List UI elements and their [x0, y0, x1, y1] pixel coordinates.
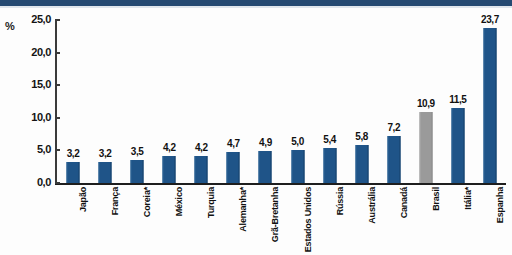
top-banner-shadow	[0, 6, 512, 8]
bar[interactable]	[483, 28, 496, 183]
bar-value-label: 4,2	[195, 142, 208, 153]
bar-value-label: 5,4	[323, 134, 336, 145]
y-axis-tick-label-text: 25,0	[31, 13, 51, 25]
x-axis-category-label: Alemanha*	[238, 187, 248, 232]
x-axis-label-slot: Coreia*	[131, 187, 143, 253]
bar-slot[interactable]: 4,7	[217, 20, 249, 183]
x-axis-category-label: França	[110, 187, 120, 215]
bar[interactable]	[451, 108, 464, 183]
bar-slot[interactable]: 5,4	[314, 20, 346, 183]
x-axis-label-slot: Brasil	[420, 187, 432, 253]
y-axis-tick-label-text: 15,0	[31, 78, 51, 90]
y-axis-tick-label: 0,0	[0, 176, 51, 188]
bar-slot[interactable]: 4,2	[185, 20, 217, 183]
bar-value-label: 7,2	[387, 122, 400, 133]
x-axis-category-label: Brasil	[431, 187, 441, 211]
x-axis-category-label: Espanha	[495, 187, 505, 223]
y-axis-tick-label: 10,0	[0, 111, 51, 123]
x-axis-category-label: Japão	[78, 187, 88, 212]
bar-slot[interactable]: 3,2	[57, 20, 89, 183]
bar-slot[interactable]: 4,9	[249, 20, 281, 183]
bar-slot[interactable]: 5,0	[282, 20, 314, 183]
x-axis-category-label: Grã-Bretanha	[270, 187, 280, 242]
bar-slot[interactable]: 3,5	[121, 20, 153, 183]
x-axis-category-label: Estados Unidos	[303, 187, 313, 252]
bar[interactable]	[355, 145, 368, 183]
bar-value-label: 11,5	[449, 94, 466, 105]
y-axis-tick-label-text: 0,0	[37, 176, 51, 188]
bar[interactable]	[227, 152, 240, 183]
y-axis-tick-label: 15,0	[0, 78, 51, 90]
x-axis-label-slot: Rússia	[324, 187, 336, 253]
bar-value-label: 23,7	[481, 14, 499, 25]
bar-value-label: 4,7	[227, 138, 240, 149]
x-axis-label-slot: Itália*	[452, 187, 464, 253]
bar[interactable]	[259, 151, 272, 183]
bar-value-label: 3,5	[131, 146, 144, 157]
x-axis-category-label: Rússia	[335, 187, 345, 215]
y-axis-tick-label-text: 5,0	[37, 143, 51, 155]
bar-value-label: 5,8	[355, 131, 368, 142]
y-axis-tick-label: 20,0	[0, 46, 51, 58]
bar[interactable]	[131, 160, 144, 183]
bar[interactable]	[195, 156, 208, 183]
x-axis-label-slot: Turquia	[195, 187, 207, 253]
bar-slot[interactable]: 7,2	[378, 20, 410, 183]
x-axis-label-slot: Espanha	[484, 187, 496, 253]
bar[interactable]	[387, 136, 400, 183]
x-axis-label-slot: Austrália	[356, 187, 368, 253]
y-axis-tick-label-text: 10,0	[31, 111, 51, 123]
bar-value-label: 4,2	[163, 142, 176, 153]
bar[interactable]	[163, 156, 176, 183]
x-axis-category-label: Coreia*	[142, 187, 152, 217]
x-axis-label-slot: México	[163, 187, 175, 253]
y-axis-tick-label: 5,0	[0, 143, 51, 155]
bar-slot[interactable]: 23,7	[474, 20, 506, 183]
x-axis-category-label: México	[174, 187, 184, 216]
y-axis-tick-label-text: 20,0	[31, 46, 51, 58]
bar-value-label: 5,0	[291, 136, 304, 147]
x-axis-label-slot: Alemanha*	[227, 187, 239, 253]
bar-slot[interactable]: 10,9	[410, 20, 442, 183]
y-axis-tick-label: 25,0	[0, 13, 51, 25]
x-axis-label-slot: França	[99, 187, 111, 253]
bar-slot[interactable]: 4,2	[153, 20, 185, 183]
bar[interactable]	[291, 150, 304, 183]
x-axis-line	[55, 183, 506, 185]
x-axis-label-slot: Japão	[67, 187, 79, 253]
bar-slot[interactable]: 3,2	[89, 20, 121, 183]
bar-value-label: 3,2	[67, 148, 80, 159]
bar[interactable]	[99, 162, 112, 183]
x-axis-category-label: Canadá	[399, 187, 409, 218]
x-axis-label-slot: Estados Unidos	[292, 187, 304, 253]
x-axis-label-slot: Grã-Bretanha	[259, 187, 271, 253]
bar-value-label: 10,9	[417, 98, 435, 109]
x-axis-category-label: Itália*	[463, 187, 473, 210]
bar-chart: % 0,05,010,015,020,025,0 3,23,23,54,24,2…	[0, 0, 512, 255]
plot-area: 3,23,23,54,24,24,74,95,05,45,87,210,911,…	[57, 20, 506, 183]
bar-slot[interactable]: 11,5	[442, 20, 474, 183]
bar[interactable]	[67, 162, 80, 183]
x-axis-category-label: Turquia	[206, 187, 216, 218]
x-axis-label-slot: Canadá	[388, 187, 400, 253]
bar[interactable]	[323, 148, 336, 183]
bar[interactable]	[419, 112, 432, 183]
bar-value-label: 3,2	[99, 148, 112, 159]
bar-slot[interactable]: 5,8	[346, 20, 378, 183]
bar-value-label: 4,9	[259, 137, 272, 148]
x-axis-category-label: Austrália	[367, 187, 377, 224]
